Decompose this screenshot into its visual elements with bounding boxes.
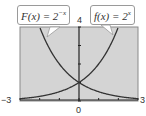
label-F: F(x) = 2−x <box>17 5 70 25</box>
label-f: f(x) = 2x <box>90 5 135 25</box>
x-max-label: 3 <box>140 96 145 105</box>
x-min-label: −3 <box>1 96 11 105</box>
x-origin-label: 0 <box>76 106 81 115</box>
y-max-label: 4 <box>77 16 82 25</box>
